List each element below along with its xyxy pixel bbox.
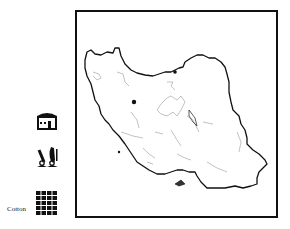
cotton-label: Cotton (7, 205, 26, 213)
iran-map (77, 12, 276, 216)
city-marker (132, 100, 136, 104)
map-frame (75, 10, 278, 218)
country-border (85, 48, 267, 188)
city-marker (173, 70, 177, 74)
house-icon (37, 110, 57, 130)
grid-icon (36, 191, 58, 215)
scissors-icon (37, 146, 58, 168)
